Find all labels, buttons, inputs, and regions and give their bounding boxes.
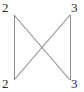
vertex-label-top-left: 2 — [2, 1, 9, 14]
graph-diagram: 2 3 2 3 — [0, 0, 84, 92]
vertex-label-bottom-right: 3 — [71, 77, 78, 90]
vertex-label-top-right: 3 — [71, 1, 78, 14]
vertex-label-bottom-left: 2 — [2, 77, 9, 90]
